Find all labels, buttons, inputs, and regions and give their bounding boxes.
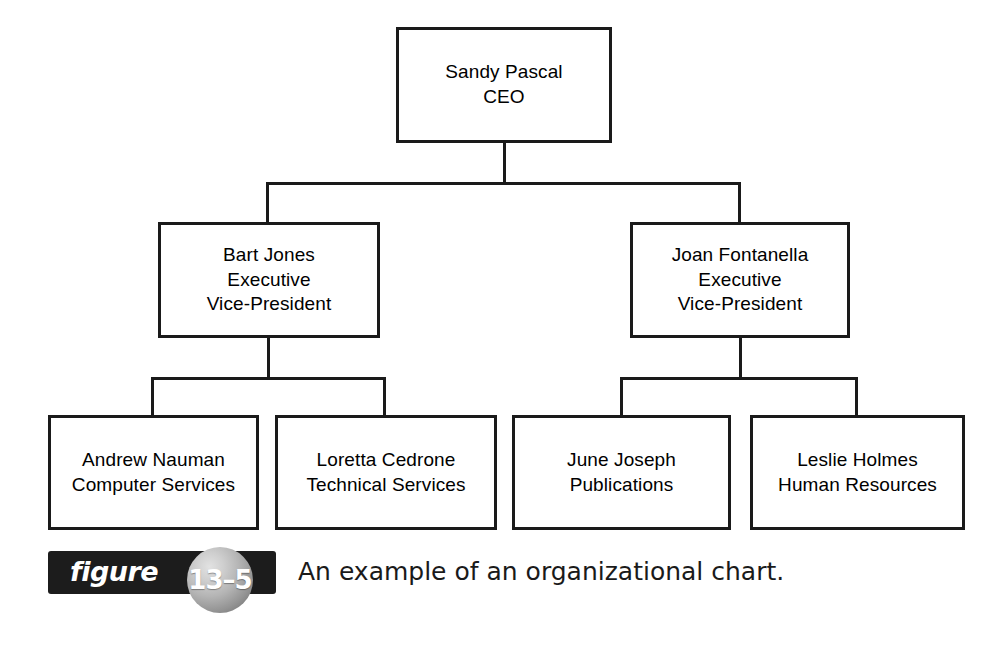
- org-node-evp-right-title2: Vice-President: [678, 292, 803, 317]
- figure-label-text: figure: [70, 556, 158, 587]
- connector-evp-left-stem: [267, 338, 270, 379]
- connector-ceo-stem: [503, 143, 506, 184]
- org-node-mgr-1-name: Andrew Nauman: [82, 448, 225, 473]
- figure-caption-block: figure 13–5 An example of an organizatio…: [48, 547, 948, 609]
- org-node-ceo-title: CEO: [483, 85, 524, 110]
- org-node-mgr-4-name: Leslie Holmes: [797, 448, 918, 473]
- connector-drop-mgr-4: [855, 377, 858, 416]
- org-node-mgr-2-dept: Technical Services: [306, 473, 465, 498]
- connector-drop-mgr-2: [383, 377, 386, 416]
- org-node-evp-right-name: Joan Fontanella: [672, 243, 809, 268]
- org-node-mgr-1-dept: Computer Services: [72, 473, 235, 498]
- figure-page: Sandy Pascal CEO Bart Jones Executive Vi…: [0, 0, 1002, 651]
- connector-evp-right-stem: [739, 338, 742, 379]
- connector-drop-mgr-3: [620, 377, 623, 416]
- org-node-ceo-name: Sandy Pascal: [445, 60, 562, 85]
- org-node-mgr-2-name: Loretta Cedrone: [317, 448, 456, 473]
- org-node-evp-right: Joan Fontanella Executive Vice-President: [630, 222, 850, 338]
- figure-caption-text: An example of an organizational chart.: [298, 557, 784, 586]
- org-node-evp-left: Bart Jones Executive Vice-President: [158, 222, 380, 338]
- org-node-evp-left-title2: Vice-President: [207, 292, 332, 317]
- org-node-mgr-3-dept: Publications: [570, 473, 674, 498]
- figure-number-text: 13–5: [188, 565, 251, 595]
- org-node-evp-left-name: Bart Jones: [223, 243, 315, 268]
- org-node-mgr-2: Loretta Cedrone Technical Services: [275, 415, 497, 530]
- connector-drop-evp-right: [738, 182, 741, 223]
- connector-drop-mgr-1: [151, 377, 154, 416]
- connector-drop-evp-left: [266, 182, 269, 223]
- connector-level2-bus: [266, 182, 741, 185]
- org-node-mgr-3: June Joseph Publications: [512, 415, 731, 530]
- org-node-evp-left-title1: Executive: [227, 268, 310, 293]
- org-node-mgr-4: Leslie Holmes Human Resources: [750, 415, 965, 530]
- org-node-mgr-1: Andrew Nauman Computer Services: [48, 415, 259, 530]
- org-node-mgr-3-name: June Joseph: [567, 448, 676, 473]
- org-node-mgr-4-dept: Human Resources: [778, 473, 937, 498]
- figure-number-badge: 13–5: [187, 547, 253, 613]
- org-node-evp-right-title1: Executive: [698, 268, 781, 293]
- connector-right-managers-bus: [620, 377, 858, 380]
- org-node-ceo: Sandy Pascal CEO: [396, 27, 612, 143]
- connector-left-managers-bus: [151, 377, 386, 380]
